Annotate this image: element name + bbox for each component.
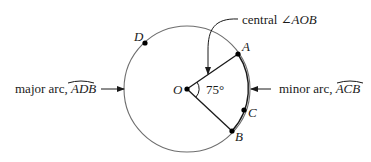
label-c: C (248, 105, 257, 120)
minor-arc-label: minor arc, ACB (279, 81, 360, 96)
point-o (184, 86, 189, 91)
point-b (229, 128, 234, 133)
angle-arc (196, 82, 199, 97)
label-o: O (173, 82, 183, 97)
minor-arc-name: ACB (335, 81, 361, 96)
central-angle-prefix: central (242, 12, 281, 27)
central-angle-name: AOB (291, 12, 317, 27)
label-b: B (235, 129, 243, 144)
angle-symbol: ∠ (281, 12, 292, 27)
major-arc-label: major arc, ADB (15, 81, 96, 96)
point-c (241, 107, 246, 112)
point-a (235, 51, 240, 56)
label-a: A (241, 39, 250, 54)
minor-arc-prefix: minor arc, (279, 81, 336, 96)
angle-value: 75° (206, 82, 224, 97)
major-arc-prefix: major arc, (15, 81, 71, 96)
central-angle-label: central ∠AOB (242, 12, 317, 27)
major-arc-name: ADB (70, 81, 96, 96)
label-d: D (133, 29, 144, 44)
circle-arcs-diagram: O A B C D 75° central ∠AOB major arc, AD… (0, 0, 371, 162)
